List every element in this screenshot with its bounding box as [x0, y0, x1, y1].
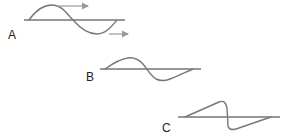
label-a: A	[8, 29, 16, 41]
panel-b	[100, 58, 201, 81]
panel-c	[178, 101, 280, 129]
label-b: B	[86, 71, 94, 83]
panel-a	[24, 5, 128, 34]
wave-steepening-diagram	[0, 0, 289, 136]
label-c: C	[162, 122, 171, 134]
wave-c	[185, 101, 271, 129]
